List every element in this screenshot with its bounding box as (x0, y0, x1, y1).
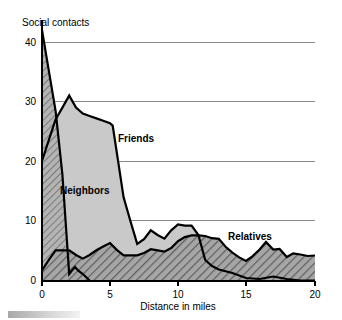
series-label-friends: Friends (118, 133, 155, 144)
y-tick-label-0: 0 (30, 275, 36, 286)
y-tick-label-10: 10 (25, 215, 37, 226)
series-label-relatives: Relatives (228, 231, 272, 242)
bottom-edge-artifact (8, 311, 80, 318)
x-tick-label-20: 20 (309, 289, 321, 300)
y-axis-title: Social contacts (22, 17, 89, 28)
x-tick-label-10: 10 (172, 289, 184, 300)
y-tick-label-20: 20 (25, 156, 37, 167)
social-contacts-area-chart: 40 30 20 10 0 0 5 10 15 20 Social contac… (0, 0, 342, 320)
x-tick-label-15: 15 (240, 289, 252, 300)
y-tick-label-30: 30 (25, 96, 37, 107)
y-tick-label-40: 40 (25, 37, 37, 48)
x-tick-label-5: 5 (107, 289, 113, 300)
x-tickmarks (42, 281, 315, 286)
series-label-neighbors: Neighbors (60, 185, 110, 196)
x-tick-label-0: 0 (39, 289, 45, 300)
x-axis-title: Distance in miles (140, 301, 216, 312)
